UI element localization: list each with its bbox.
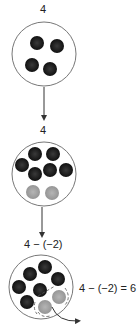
step-3-set bbox=[9, 255, 78, 321]
dark-counter bbox=[15, 158, 29, 172]
dark-counter bbox=[23, 267, 37, 281]
step-1-set bbox=[12, 22, 76, 86]
light-counter bbox=[45, 186, 59, 200]
dark-counter bbox=[20, 295, 34, 309]
dark-counter bbox=[28, 147, 42, 161]
dark-counter bbox=[38, 260, 52, 274]
dark-counter bbox=[50, 39, 64, 53]
dark-counter bbox=[43, 163, 57, 177]
dark-counter bbox=[46, 147, 60, 161]
subtraction-counters-diagram bbox=[0, 0, 139, 333]
light-counter-removed bbox=[52, 290, 66, 304]
dark-counter bbox=[28, 167, 42, 181]
dark-counter bbox=[59, 163, 73, 177]
dark-counter bbox=[51, 272, 65, 286]
step-2-set bbox=[12, 142, 76, 206]
remove-arrow-icon bbox=[52, 307, 78, 321]
dark-counter bbox=[43, 62, 57, 76]
light-counter bbox=[26, 185, 40, 199]
dark-counter bbox=[25, 58, 39, 72]
dark-counter bbox=[12, 280, 26, 294]
light-counter-removed bbox=[38, 300, 52, 314]
dark-counter bbox=[30, 36, 44, 50]
